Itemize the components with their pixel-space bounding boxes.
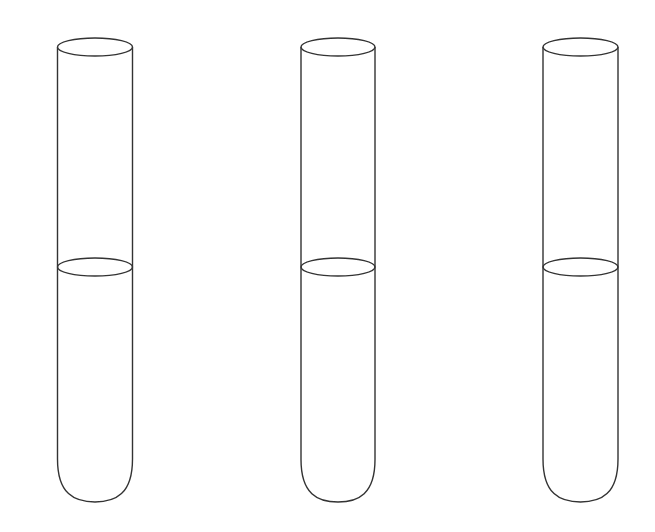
tube-rim (543, 38, 618, 56)
liquid-surface (301, 258, 375, 276)
tube-1 (58, 38, 133, 502)
tube-rim (301, 38, 375, 56)
tube-body (301, 47, 375, 502)
liquid-surface (58, 258, 133, 276)
tube-body (543, 47, 618, 502)
tube-3 (543, 38, 618, 502)
test-tubes-diagram (0, 0, 655, 532)
tube-2 (301, 38, 375, 502)
tube-rim (58, 38, 133, 56)
tube-body (58, 47, 133, 502)
liquid-surface (543, 258, 618, 276)
